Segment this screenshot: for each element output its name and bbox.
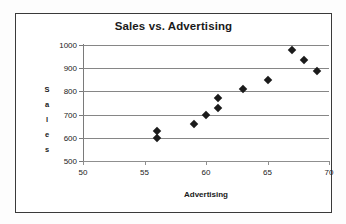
scanned-page: Sales vs. Advertising S a l e s 50060070… [0, 0, 346, 224]
y-axis-tick [79, 91, 83, 92]
y-axis-title-char: s [40, 142, 54, 157]
y-axis-tick [79, 45, 83, 46]
x-axis-tick [329, 161, 330, 165]
y-axis-title: S a l e s [40, 82, 54, 157]
data-point [153, 127, 161, 135]
plot-area: 5006007008009001000 5055606570 [83, 45, 329, 161]
gridline [83, 91, 329, 92]
data-point [189, 120, 197, 128]
chart-container: Sales vs. Advertising S a l e s 50060070… [15, 13, 332, 213]
y-axis-title-char: a [40, 97, 54, 112]
x-axis-tick-label: 65 [263, 168, 272, 177]
y-axis-tick-label: 900 [64, 64, 77, 73]
x-axis-tick-label: 60 [202, 168, 211, 177]
data-point [202, 110, 210, 118]
y-axis-tick-label: 600 [64, 133, 77, 142]
x-axis-tick [83, 161, 84, 165]
y-axis-title-char: l [40, 112, 54, 127]
chart-title: Sales vs. Advertising [16, 20, 331, 32]
data-point [214, 94, 222, 102]
y-axis-tick-label: 700 [64, 110, 77, 119]
gridline [83, 138, 329, 139]
y-axis-tick-label: 800 [64, 87, 77, 96]
data-point [214, 103, 222, 111]
x-axis-tick [268, 161, 269, 165]
data-point [288, 45, 296, 53]
y-axis-tick-label: 1000 [59, 41, 77, 50]
y-axis-tick [79, 68, 83, 69]
y-axis-title-char: S [40, 82, 54, 97]
x-axis-title: Advertising [83, 190, 329, 199]
y-axis-tick [79, 138, 83, 139]
y-axis-tick-label: 500 [64, 157, 77, 166]
y-axis-title-char: e [40, 127, 54, 142]
x-axis-tick [145, 161, 146, 165]
x-axis-tick-label: 55 [140, 168, 149, 177]
data-point [263, 76, 271, 84]
y-axis-tick [79, 115, 83, 116]
x-axis-tick-label: 70 [325, 168, 334, 177]
x-axis-tick-label: 50 [79, 168, 88, 177]
data-point [300, 56, 308, 64]
y-axis-line [83, 44, 84, 161]
x-axis-tick [206, 161, 207, 165]
gridline [83, 68, 329, 69]
